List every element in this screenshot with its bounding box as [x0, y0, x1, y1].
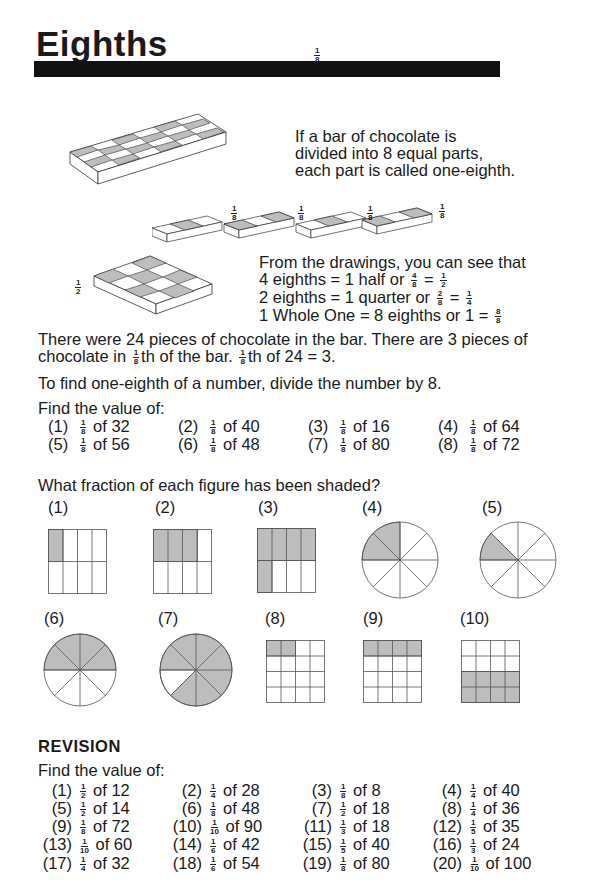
item-fraction: 18: [210, 437, 216, 454]
item-number: (15): [298, 836, 332, 853]
item-text: of 12: [93, 781, 130, 799]
item-text: of 32: [93, 854, 130, 872]
item-number: (20): [428, 855, 462, 872]
half-label: 12: [73, 278, 83, 296]
item-fraction: 14: [210, 783, 216, 800]
item-text: of 16: [353, 417, 390, 435]
figure-label: (10): [460, 609, 489, 628]
exercise-item: (19)18 of 80: [298, 855, 428, 873]
item-text: of 64: [483, 417, 520, 435]
item-number: (12): [428, 818, 462, 835]
figure-label: (6): [44, 609, 64, 628]
item-fraction: 18: [340, 419, 346, 436]
figure-label: (2): [155, 498, 175, 517]
item-fraction: 18: [340, 437, 346, 454]
item-text: of 40: [483, 781, 520, 799]
bar-fraction-label: 18: [365, 204, 375, 222]
figure-label: (3): [258, 498, 278, 517]
exercise-item: (12)15 of 35: [428, 818, 558, 836]
figure-8: [266, 640, 326, 704]
item-number: (2): [178, 418, 202, 435]
explanation-text: There were 24 pieces of chocolate in the…: [38, 331, 578, 366]
item-text: of 60: [96, 835, 133, 853]
bar-fraction-label: 18: [229, 204, 239, 222]
item-fraction: 18: [210, 801, 216, 818]
exercise-item: (8)14 of 36: [428, 800, 558, 818]
item-number: (18): [168, 855, 202, 872]
item-fraction: 18: [340, 856, 346, 873]
intro-text: If a bar of chocolate is divided into 8 …: [295, 128, 515, 179]
item-fraction: 12: [80, 783, 86, 800]
figure-label: (8): [265, 609, 285, 628]
item-fraction: 12: [80, 801, 86, 818]
item-number: (4): [428, 782, 462, 799]
exercise-item: (17)14 of 32: [38, 855, 168, 873]
figure-3: [257, 528, 317, 593]
revision-list: (1)12 of 12(2)14 of 28(3)18 of 8(4)14 of…: [38, 782, 558, 873]
item-text: of 35: [483, 817, 520, 835]
item-fraction: 15: [470, 819, 476, 836]
exercise-item: (13)110 of 60: [38, 836, 168, 854]
item-text: of 40: [223, 417, 260, 435]
item-text: of 56: [93, 435, 130, 453]
exercise-item: (9)18 of 72: [38, 818, 168, 836]
item-number: (7): [308, 436, 332, 453]
item-text: of 18: [353, 817, 390, 835]
exercise-item: (15)15 of 40: [298, 836, 428, 854]
item-text: of 72: [483, 435, 520, 453]
figure-2: [153, 529, 213, 594]
item-fraction: 110: [470, 856, 479, 873]
item-text: of 48: [223, 799, 260, 817]
chocolate-bar-illustration: [68, 112, 228, 187]
figure-label: (1): [48, 498, 68, 517]
item-fraction: 13: [470, 838, 476, 855]
item-number: (3): [308, 418, 332, 435]
figure-1: [48, 529, 108, 594]
item-text: of 18: [353, 799, 390, 817]
item-text: of 40: [353, 835, 390, 853]
item-number: (17): [38, 855, 72, 872]
item-number: (10): [168, 818, 202, 835]
bar-fraction-label: 18: [437, 202, 447, 220]
item-number: (14): [168, 836, 202, 853]
figure-6: [42, 632, 118, 708]
item-fraction: 14: [80, 856, 86, 873]
exercise-item: (6)18 of 48: [168, 800, 298, 818]
exercise-item: (7)12 of 18: [298, 800, 428, 818]
item-fraction: 18: [210, 419, 216, 436]
item-fraction: 110: [80, 838, 89, 855]
item-fraction: 18: [80, 819, 86, 836]
revision-subheading: Find the value of:: [38, 762, 165, 779]
figure-9: [363, 640, 423, 704]
item-number: (2): [168, 782, 202, 799]
exercise-list: (1)18 of 32(2)18 of 40(3)18 of 16(4)18 o…: [48, 418, 568, 454]
exercise-heading: Find the value of:: [38, 400, 165, 417]
item-text: of 36: [483, 799, 520, 817]
drawings-text: From the drawings, you can see that 4 ei…: [259, 254, 526, 325]
item-fraction: 16: [210, 838, 216, 855]
item-text: of 80: [353, 854, 390, 872]
figure-label: (7): [158, 609, 178, 628]
exercise-item: (14)16 of 42: [168, 836, 298, 854]
figures-question: What fraction of each figure has been sh…: [38, 477, 380, 494]
half-bar-illustration: [92, 254, 217, 319]
exercise-item: (11)13 of 18: [298, 818, 428, 836]
exercise-item: (6)18 of 48: [178, 436, 308, 454]
item-text: of 42: [223, 835, 260, 853]
exercise-item: (4)14 of 40: [428, 782, 558, 800]
exercise-item: (3)18 of 8: [298, 782, 428, 800]
exercise-item: (10)110 of 90: [168, 818, 298, 836]
item-number: (13): [38, 836, 72, 853]
item-fraction: 14: [470, 801, 476, 818]
page-title: Eighths: [36, 24, 168, 64]
exercise-item: (16)13 of 24: [428, 836, 558, 854]
item-text: of 54: [223, 854, 260, 872]
figure-label: (9): [363, 609, 383, 628]
item-number: (7): [298, 800, 332, 817]
item-number: (4): [438, 418, 462, 435]
figure-4: [360, 520, 440, 600]
exercise-item: (2)18 of 40: [178, 418, 308, 436]
exercise-item: (4)18 of 64: [438, 418, 568, 436]
figure-5: [478, 520, 558, 600]
item-number: (5): [38, 800, 72, 817]
